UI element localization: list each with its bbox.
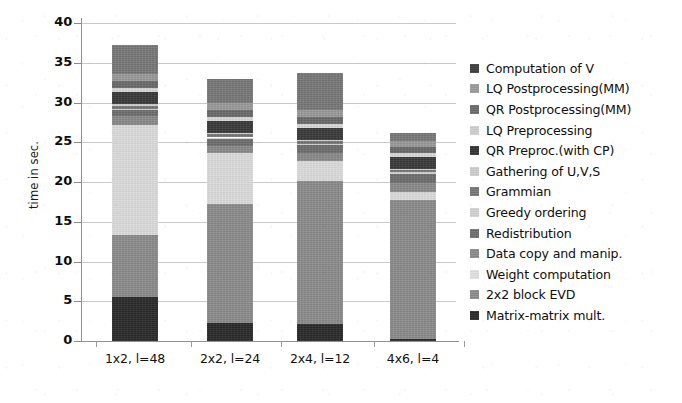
bar-segment[interactable] bbox=[112, 104, 158, 106]
bar-segment[interactable] bbox=[112, 45, 158, 74]
bar-stack[interactable] bbox=[390, 23, 436, 341]
legend-item[interactable]: Data copy and manip. bbox=[470, 243, 676, 264]
bar-segment[interactable] bbox=[390, 170, 436, 172]
bar-segment[interactable] bbox=[297, 153, 343, 161]
bar-segment[interactable] bbox=[390, 147, 436, 153]
bar-segment[interactable] bbox=[207, 138, 253, 140]
legend-item-label: QR Postprocessing(MM) bbox=[486, 102, 631, 117]
bar-segment[interactable] bbox=[390, 200, 436, 338]
y-axis-tick-label: 25 bbox=[38, 133, 72, 148]
legend-item-label: QR Preproc.(with CP) bbox=[486, 143, 614, 158]
bar-segment[interactable] bbox=[112, 116, 158, 125]
bar-segment[interactable] bbox=[112, 125, 158, 236]
bar-segment[interactable] bbox=[112, 88, 158, 92]
bar-segment[interactable] bbox=[207, 110, 253, 117]
bar-segment[interactable] bbox=[112, 235, 158, 297]
bar-segment[interactable] bbox=[112, 109, 158, 111]
bar-segment[interactable] bbox=[112, 110, 158, 116]
y-axis-tick-mark bbox=[74, 23, 81, 24]
y-axis-tick-label: 40 bbox=[38, 14, 72, 29]
bar-segment[interactable] bbox=[390, 174, 436, 183]
y-axis-tick-label: 10 bbox=[38, 253, 72, 268]
y-axis-tick-label: 5 bbox=[38, 292, 72, 307]
legend-swatch-icon bbox=[470, 208, 479, 217]
bar-segment[interactable] bbox=[390, 169, 436, 171]
bar-segment[interactable] bbox=[297, 124, 343, 128]
legend-swatch-icon bbox=[470, 64, 479, 73]
legend-item[interactable]: QR Postprocessing(MM) bbox=[470, 99, 676, 120]
legend-item[interactable]: Matrix-matrix mult. bbox=[470, 305, 676, 326]
legend-item[interactable]: Grammian bbox=[470, 182, 676, 203]
x-axis-line bbox=[81, 341, 459, 342]
legend-item[interactable]: Computation of V bbox=[470, 58, 676, 79]
bar-segment[interactable] bbox=[297, 117, 343, 124]
bar-segment[interactable] bbox=[297, 161, 343, 181]
bar-segment[interactable] bbox=[297, 181, 343, 323]
x-axis-tick-label: 2x2, l=24 bbox=[180, 351, 280, 366]
legend-item[interactable]: Gathering of U,V,S bbox=[470, 161, 676, 182]
y-axis-tick-mark bbox=[74, 262, 81, 263]
bar-segment[interactable] bbox=[207, 139, 253, 146]
bar-segment[interactable] bbox=[207, 103, 253, 110]
bar-segment[interactable] bbox=[112, 74, 158, 81]
bar-segment[interactable] bbox=[297, 73, 343, 110]
bar-segment[interactable] bbox=[297, 144, 343, 146]
legend-item-label: Weight computation bbox=[486, 267, 611, 282]
bar-segment[interactable] bbox=[390, 172, 436, 174]
plot-area: 1x2, l=482x2, l=242x4, l=124x6, l=4 bbox=[81, 0, 456, 403]
legend-item-label: LQ Postprocessing(MM) bbox=[486, 81, 630, 96]
bar-segment[interactable] bbox=[112, 81, 158, 88]
legend-item[interactable]: LQ Postprocessing(MM) bbox=[470, 79, 676, 100]
legend-item-label: 2x2 block EVD bbox=[486, 287, 575, 302]
bar-segment[interactable] bbox=[207, 323, 253, 341]
bar-segment[interactable] bbox=[390, 183, 436, 192]
legend-item[interactable]: LQ Preprocessing bbox=[470, 120, 676, 141]
stacked-bar-chart: time in sec. 0510152025303540 1x2, l=482… bbox=[0, 0, 682, 403]
y-axis-tick-label: 15 bbox=[38, 213, 72, 228]
bar-segment[interactable] bbox=[112, 297, 158, 341]
y-axis-tick-mark bbox=[74, 301, 81, 302]
bar-segment[interactable] bbox=[297, 140, 343, 142]
y-axis-tick-label: 30 bbox=[38, 94, 72, 109]
legend-item[interactable]: 2x2 block EVD bbox=[470, 285, 676, 306]
bar-segment[interactable] bbox=[297, 145, 343, 153]
bar-segment[interactable] bbox=[390, 153, 436, 157]
bar-stack[interactable] bbox=[297, 23, 343, 341]
bar-segment[interactable] bbox=[207, 121, 253, 133]
bar-segment[interactable] bbox=[297, 324, 343, 341]
bar-segment[interactable] bbox=[390, 141, 436, 147]
legend-item-label: Computation of V bbox=[486, 61, 594, 76]
legend-item-label: Greedy ordering bbox=[486, 205, 586, 220]
x-axis-tick-mark bbox=[96, 341, 97, 347]
bar-segment[interactable] bbox=[297, 141, 343, 143]
bar-segment[interactable] bbox=[390, 157, 436, 168]
legend-item[interactable]: QR Preproc.(with CP) bbox=[470, 140, 676, 161]
legend-item-label: Data copy and manip. bbox=[486, 246, 622, 261]
bar-segment[interactable] bbox=[207, 79, 253, 103]
x-axis-tick-label: 2x4, l=12 bbox=[270, 351, 370, 366]
y-axis-tick-label: 20 bbox=[38, 173, 72, 188]
bar-segment[interactable] bbox=[390, 192, 436, 201]
bar-segment[interactable] bbox=[207, 117, 253, 121]
bar-segment[interactable] bbox=[207, 153, 253, 204]
bar-segment[interactable] bbox=[207, 204, 253, 322]
y-axis-tick-mark bbox=[74, 63, 81, 64]
bar-segment[interactable] bbox=[207, 134, 253, 137]
bar-stack[interactable] bbox=[112, 23, 158, 341]
bar-segment[interactable] bbox=[112, 92, 158, 104]
y-axis-tick-mark bbox=[74, 103, 81, 104]
legend-item[interactable]: Weight computation bbox=[470, 264, 676, 285]
bar-segment[interactable] bbox=[297, 128, 343, 140]
y-axis-tick-label: 35 bbox=[38, 54, 72, 69]
bar-segment[interactable] bbox=[297, 110, 343, 117]
bar-stack[interactable] bbox=[207, 23, 253, 341]
legend-item[interactable]: Greedy ordering bbox=[470, 202, 676, 223]
bar-segment[interactable] bbox=[112, 106, 158, 109]
bar-segment[interactable] bbox=[390, 339, 436, 341]
x-axis-tick-label: 1x2, l=48 bbox=[85, 351, 185, 366]
bar-segment[interactable] bbox=[207, 146, 253, 153]
legend-item[interactable]: Redistribution bbox=[470, 223, 676, 244]
bar-segment[interactable] bbox=[390, 133, 436, 141]
legend-item-label: Redistribution bbox=[486, 226, 572, 241]
bar-segment[interactable] bbox=[207, 133, 253, 135]
